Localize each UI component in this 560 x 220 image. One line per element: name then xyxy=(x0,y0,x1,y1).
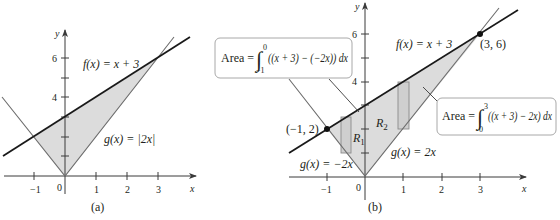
x-tick-label-1-b: 1 xyxy=(401,184,406,195)
x-tick-label-1-a: 1 xyxy=(94,184,99,195)
point-neg1-2 xyxy=(324,126,330,132)
y-axis-label-a: y xyxy=(54,28,60,39)
y-tick-label-6-b: 6 xyxy=(352,29,357,40)
f-label-a: f(x) = x + 3 xyxy=(83,57,139,71)
origin-label-a: 0 xyxy=(57,182,62,193)
callout-right-lower-limit: 0 xyxy=(479,125,483,134)
x-tick-label-2-a: 2 xyxy=(125,184,130,195)
panel-b: −1 1 2 3 0 4 6 x y (−1, 2) (3, 6) f(x) =… xyxy=(215,1,556,214)
x-axis-label-a: x xyxy=(189,183,195,194)
origin-label-b: 0 xyxy=(356,182,361,193)
callout-left: Area = ∫ 0 −1 ((x + 3) − (−2x)) dx xyxy=(215,38,352,78)
callout-left-integrand: ((x + 3) − (−2x)) dx xyxy=(268,51,349,65)
point-label-right: (3, 6) xyxy=(480,37,506,51)
g-label-a: g(x) = |2x| xyxy=(104,132,155,146)
figure: −1 1 2 3 0 4 6 x y f(x) = x + 3 g(x) = |… xyxy=(0,0,560,220)
x-axis-label-b: x xyxy=(521,183,527,194)
panel-a: −1 1 2 3 0 4 6 x y f(x) = x + 3 g(x) = |… xyxy=(2,28,196,214)
f-label-b: f(x) = x + 3 xyxy=(396,37,452,51)
point-label-left: (−1, 2) xyxy=(286,122,319,136)
x-tick-label-3-b: 3 xyxy=(478,184,483,195)
rectangle-r2 xyxy=(398,82,409,129)
callout-right-integrand: ((x + 3) − 2x) dx xyxy=(488,109,553,123)
callout-left-lower-limit: −1 xyxy=(256,66,265,75)
x-tick-label-neg1-b: −1 xyxy=(321,184,332,195)
caption-a: (a) xyxy=(91,200,104,214)
g-left-label-b: g(x) = −2x xyxy=(300,157,354,171)
y-tick-label-4-b: 4 xyxy=(352,76,357,87)
callout-right-prefix: Area = xyxy=(442,109,475,123)
caption-b: (b) xyxy=(368,200,382,214)
shaded-region-a xyxy=(34,58,158,176)
y-tick-label-4-a: 4 xyxy=(52,92,57,103)
callout-right: Area = ∫ 3 0 ((x + 3) − 2x) dx xyxy=(437,98,556,135)
x-tick-label-3-a: 3 xyxy=(156,184,161,195)
y-tick-label-6-a: 6 xyxy=(52,53,57,64)
g-right-label-b: g(x) = 2x xyxy=(391,145,436,159)
f-line-a xyxy=(3,37,190,156)
callout-left-upper-limit: 0 xyxy=(263,43,267,52)
callout-left-prefix: Area = xyxy=(221,51,254,65)
y-axis-label-b: y xyxy=(354,1,360,12)
x-tick-label-neg1-a: −1 xyxy=(30,184,41,195)
x-tick-label-2-b: 2 xyxy=(439,184,444,195)
